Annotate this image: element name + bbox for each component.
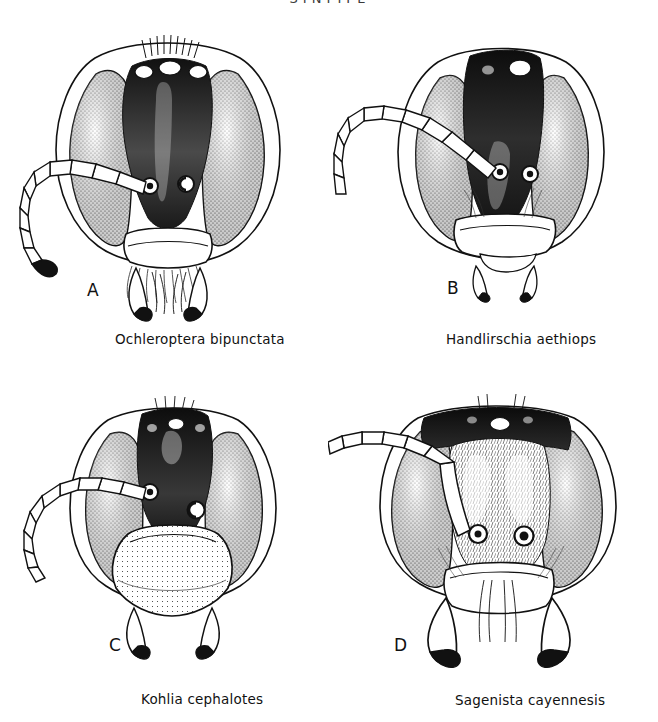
clypeus-b xyxy=(454,214,556,258)
antennal-socket-left-center-b xyxy=(497,169,503,175)
ocellus-median-b xyxy=(509,60,531,76)
clypeus-a xyxy=(124,228,212,268)
antennal-socket-left-center-c xyxy=(147,489,153,495)
ocellus-left-a xyxy=(135,66,153,79)
caption-a: Ochleroptera bipunctata xyxy=(115,331,285,347)
ocellus-left-b xyxy=(482,66,494,75)
antennal-socket-right-center-b xyxy=(527,171,533,177)
palpi-setae-a xyxy=(152,272,186,314)
antennal-socket-left-center-d xyxy=(475,531,482,538)
clypeus-c xyxy=(112,525,232,616)
antennal-socket-right-center-d xyxy=(520,532,529,541)
panel-letter-c: C xyxy=(109,635,121,655)
antennal-socket-left-center-a xyxy=(147,183,153,189)
ocellus-right-c xyxy=(195,424,205,432)
caption-d: Sagenista cayennesis xyxy=(455,692,605,708)
mandible-left-tip-d xyxy=(430,650,460,668)
ocellus-right-a xyxy=(189,66,207,79)
ocellus-median-d xyxy=(490,418,510,431)
figure-a xyxy=(0,22,330,322)
ocellus-median-a xyxy=(159,61,181,75)
ocellus-median-c xyxy=(168,419,184,430)
figure-c xyxy=(0,384,330,674)
figure-d xyxy=(328,384,658,674)
clypeus-d xyxy=(444,563,554,614)
panel-letter-b: B xyxy=(447,278,459,298)
caption-c: Kohlia cephalotes xyxy=(141,691,263,707)
figure-b xyxy=(328,22,658,322)
ocellus-left-d xyxy=(467,417,477,424)
ocellus-right-d xyxy=(523,417,533,424)
face-d xyxy=(449,439,551,577)
plate-header: SYNTYPE xyxy=(0,0,658,6)
mandible-right-tip-d xyxy=(538,650,568,668)
taxonomic-plate: SYNTYPE xyxy=(0,0,658,722)
ocellus-left-c xyxy=(147,424,157,432)
panel-letter-a: A xyxy=(87,280,99,300)
labrum-b xyxy=(480,254,536,272)
caption-b: Handlirschia aethiops xyxy=(446,331,596,347)
panel-letter-d: D xyxy=(394,635,407,655)
